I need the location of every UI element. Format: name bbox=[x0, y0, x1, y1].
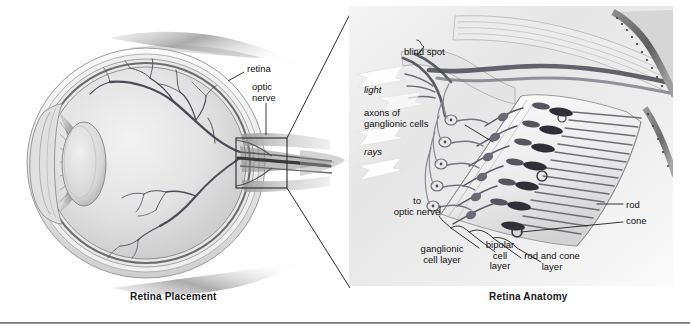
label-rod-and-cone-layer: rod and cone layer bbox=[512, 251, 592, 272]
bottom-divider bbox=[0, 322, 690, 324]
eye-cross-section-illustration bbox=[0, 0, 345, 329]
panel-retina-anatomy: blind spot light axons of ganglionic cel… bbox=[345, 0, 690, 329]
label-blind-spot: blind spot bbox=[404, 47, 445, 58]
label-cone: cone bbox=[626, 216, 647, 227]
caption-retina-anatomy: Retina Anatomy bbox=[489, 291, 568, 302]
label-rod: rod bbox=[626, 200, 640, 211]
figure-retina: retina optic nerve bbox=[0, 0, 690, 329]
label-retina: retina bbox=[247, 64, 271, 75]
label-ganglionic-cell-layer: ganglionic cell layer bbox=[409, 244, 475, 265]
label-rays: rays bbox=[364, 147, 382, 158]
label-optic-nerve: optic nerve bbox=[252, 82, 276, 103]
label-axons-of-ganglionic-cells: axons of ganglionic cells bbox=[364, 108, 428, 129]
retina-anatomy-illustration bbox=[345, 0, 690, 329]
label-to-optic-nerve: to optic nerve bbox=[383, 196, 451, 217]
panel-retina-placement: retina optic nerve bbox=[0, 0, 345, 329]
caption-retina-placement: Retina Placement bbox=[130, 291, 217, 302]
lens bbox=[62, 122, 106, 206]
optic-nerve bbox=[236, 133, 345, 192]
label-light: light bbox=[364, 85, 381, 96]
